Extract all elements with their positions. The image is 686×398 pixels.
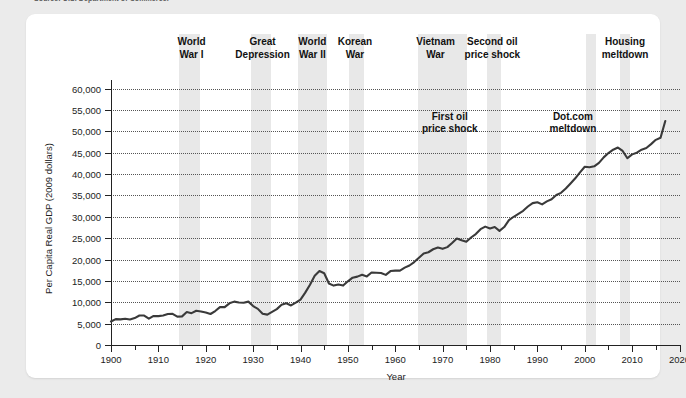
x-tick-label: 1910 xyxy=(148,354,169,365)
x-tick-label: 1930 xyxy=(243,354,264,365)
x-tick-label: 1970 xyxy=(432,354,453,365)
x-tick-mark xyxy=(632,345,633,352)
x-tick-label: 1940 xyxy=(290,354,311,365)
annotation-korean-war: Korean War xyxy=(338,36,372,61)
x-tick-mark xyxy=(348,345,349,352)
x-tick-mark xyxy=(395,345,396,352)
x-tick-label: 1920 xyxy=(195,354,216,365)
x-tick-label: 2010 xyxy=(622,354,643,365)
x-tick-mark xyxy=(301,345,302,352)
source-note: Source: U.S. Department of Commerce. xyxy=(34,0,169,2)
y-tick-label: 40,000 xyxy=(49,169,101,180)
annotation-first-oil-price-shock: First oil price shock xyxy=(422,111,478,136)
y-tick-label: 25,000 xyxy=(49,233,101,244)
annotation-world-war-i: World War I xyxy=(177,36,205,61)
x-tick-mark xyxy=(158,345,159,352)
y-tick-label: 55,000 xyxy=(49,104,101,115)
y-tick-label: 30,000 xyxy=(49,211,101,222)
x-tick-label: 1900 xyxy=(100,354,121,365)
y-tick-label: 15,000 xyxy=(49,275,101,286)
y-tick-label: 5,000 xyxy=(49,318,101,329)
x-tick-mark xyxy=(490,345,491,352)
x-tick-label: 1990 xyxy=(527,354,548,365)
annotation-vietnam-war: Vietnam War xyxy=(416,36,455,61)
x-tick-mark xyxy=(443,345,444,352)
x-axis-label: Year xyxy=(386,371,405,382)
x-tick-label: 1980 xyxy=(479,354,500,365)
x-tick-mark xyxy=(111,345,112,352)
x-tick-mark xyxy=(585,345,586,352)
y-tick-label: 10,000 xyxy=(49,297,101,308)
chart-page: Source: U.S. Department of Commerce. 05,… xyxy=(0,0,686,398)
chart-card: 05,00010,00015,00020,00025,00030,00035,0… xyxy=(26,14,660,378)
x-tick-mark xyxy=(537,345,538,352)
y-tick-label: 0 xyxy=(49,340,101,351)
annotation-housing-meltdown: Housing meltdown xyxy=(602,36,649,61)
x-tick-mark xyxy=(680,345,681,352)
y-tick-label: 45,000 xyxy=(49,147,101,158)
x-tick-label: 1960 xyxy=(385,354,406,365)
annotation-dot.com-meltdown: Dot.com meltdown xyxy=(550,111,597,136)
annotation-great-depression: Great Depression xyxy=(235,36,289,61)
x-tick-mark xyxy=(206,345,207,352)
annotation-world-war-ii: World War II xyxy=(298,36,326,61)
x-tick-label: 1950 xyxy=(337,354,358,365)
x-tick-label: 2020 xyxy=(669,354,686,365)
annotation-second-oil-price-shock: Second oil price shock xyxy=(465,36,521,61)
y-tick-label: 35,000 xyxy=(49,190,101,201)
y-axis-label: Per Capita Real GDP (2009 dollars) xyxy=(43,143,54,294)
x-tick-mark xyxy=(253,345,254,352)
x-tick-label: 2000 xyxy=(574,354,595,365)
y-tick-label: 60,000 xyxy=(49,83,101,94)
y-tick-label: 50,000 xyxy=(49,126,101,137)
y-tick-label: 20,000 xyxy=(49,254,101,265)
